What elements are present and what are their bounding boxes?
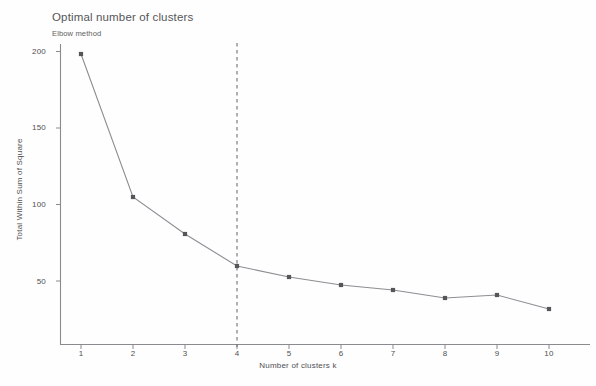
data-point-k2 xyxy=(131,195,135,199)
chart-plot-area xyxy=(0,0,596,386)
data-point-k4 xyxy=(235,264,239,268)
elbow-curve-line xyxy=(81,54,549,309)
data-point-k5 xyxy=(287,275,291,279)
data-point-k1 xyxy=(79,52,83,56)
data-point-k3 xyxy=(183,232,187,236)
data-point-k6 xyxy=(339,283,343,287)
data-point-k10 xyxy=(547,307,551,311)
x-axis-ticks xyxy=(81,345,549,350)
data-point-k9 xyxy=(495,293,499,297)
y-axis-ticks xyxy=(56,52,61,282)
data-point-markers xyxy=(79,52,551,311)
data-point-k7 xyxy=(391,288,395,292)
elbow-method-chart: Optimal number of clusters Elbow method … xyxy=(0,0,596,386)
data-point-k8 xyxy=(443,296,447,300)
chart-screenshot: Optimal number of clusters Elbow method … xyxy=(0,0,596,386)
